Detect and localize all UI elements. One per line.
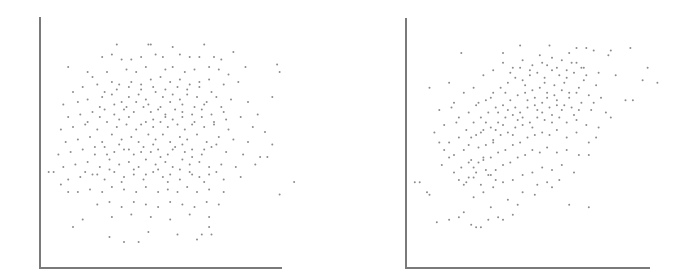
data-point [128,96,130,98]
data-point [99,166,101,168]
scatter-plot-right [344,0,688,277]
data-point [507,132,509,134]
data-point [497,122,499,124]
data-point [531,127,533,129]
data-point [573,72,575,74]
data-point [531,89,533,91]
data-point [135,191,137,193]
data-point [225,119,227,121]
data-point [561,109,563,111]
data-point [99,106,101,108]
data-point [133,169,135,171]
data-point [169,81,171,83]
data-point [84,124,86,126]
data-point [465,129,467,131]
data-point [164,89,166,91]
data-point [512,179,514,181]
data-point [512,214,514,216]
data-points [48,44,295,244]
data-point [177,124,179,126]
data-point [150,151,152,153]
data-point [96,84,98,86]
data-point [448,142,450,144]
data-point [455,122,457,124]
data-point [629,47,631,49]
data-point [111,134,113,136]
data-point [568,92,570,94]
data-point [172,66,174,68]
data-point [242,154,244,156]
data-point [65,141,67,143]
data-point [573,114,575,116]
data-point [181,204,183,206]
data-point [62,166,64,168]
data-point [218,204,220,206]
data-point [588,206,590,208]
data-point [147,44,149,46]
data-point [181,159,183,161]
data-point [475,171,477,173]
data-point [121,139,123,141]
data-point [492,69,494,71]
data-point [522,191,524,193]
data-point [426,191,428,193]
data-point [598,127,600,129]
data-point [534,194,536,196]
data-point [492,92,494,94]
data-point [470,137,472,139]
data-point [211,114,213,116]
data-point [585,124,587,126]
data-point [67,179,69,181]
data-point [167,154,169,156]
data-point [563,82,565,84]
data-point [203,44,205,46]
data-point [514,127,516,129]
data-point [160,106,162,108]
data-point [458,179,460,181]
data-point [62,104,64,106]
data-point [475,226,477,228]
data-point [539,54,541,56]
data-point [215,171,217,173]
data-point [140,124,142,126]
data-point [138,94,140,96]
data-point [235,166,237,168]
data-point [140,89,142,91]
data-point [198,56,200,58]
data-point [595,137,597,139]
data-point [519,44,521,46]
data-point [152,144,154,146]
data-point [223,111,225,113]
data-point [181,111,183,113]
data-point [208,66,210,68]
data-point [113,171,115,173]
data-point [145,186,147,188]
data-point [113,114,115,116]
data-point [167,181,169,183]
data-point [482,191,484,193]
data-point [145,174,147,176]
data-point [72,226,74,228]
data-point [463,149,465,151]
data-point [524,92,526,94]
data-point [429,87,431,89]
data-point [147,104,149,106]
data-point [133,154,135,156]
data-point [191,149,193,151]
data-point [87,71,89,73]
data-point [419,181,421,183]
data-point [194,206,196,208]
data-point [512,144,514,146]
data-point [150,44,152,46]
data-point [220,106,222,108]
data-point [198,161,200,163]
data-point [128,149,130,151]
data-point [179,79,181,81]
data-point [237,81,239,83]
data-point [118,164,120,166]
data-point [172,46,174,48]
data-point [206,101,208,103]
data-point [458,137,460,139]
data-point [475,134,477,136]
data-point [507,82,509,84]
